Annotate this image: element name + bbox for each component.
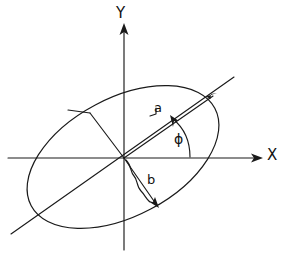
y-axis-label: Y (116, 6, 125, 21)
diagram-canvas (0, 0, 285, 272)
semi-minor-axis-label: b (147, 173, 155, 186)
minor-axis-tick-chord (68, 110, 90, 113)
semi-major-leader-line (124, 96, 213, 158)
x-axis-label: X (267, 148, 277, 163)
ellipse-geometry-figure: Y X a b ϕ (0, 0, 285, 272)
semi-major-axis-label: a (154, 101, 162, 114)
rotation-angle-label: ϕ (174, 132, 183, 146)
semi-minor-arrowhead (148, 197, 159, 208)
semi-major-arrowhead (206, 93, 217, 99)
semi-minor-axis-upper-segment (90, 113, 124, 158)
